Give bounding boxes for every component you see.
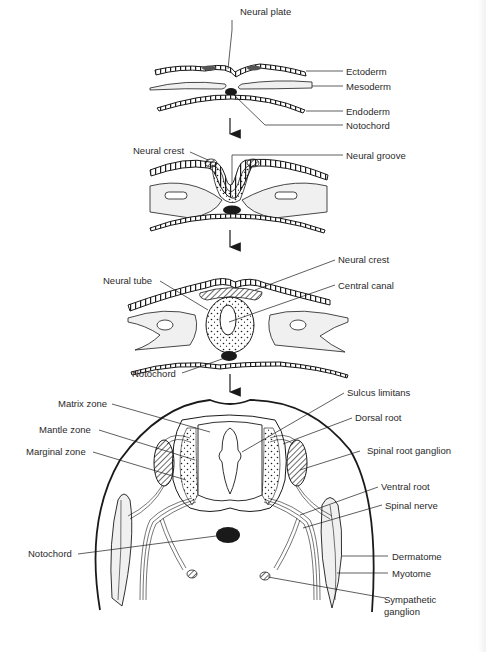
spinal-root-ganglion-left: [154, 440, 174, 486]
spinal-root-ganglion-right: [287, 440, 307, 486]
label-myotome: Myotome: [392, 568, 431, 579]
label-marginal-zone: Marginal zone: [26, 446, 86, 457]
mesoderm-layer: [150, 82, 226, 90]
label-endoderm: Endoderm: [346, 106, 390, 117]
mesoderm-right: [242, 183, 327, 218]
label-sympathetic-ganglion-line1: Sympathetic: [384, 594, 436, 605]
label-dermatome: Dermatome: [392, 551, 442, 562]
label-neural-crest-2: Neural crest: [133, 145, 184, 156]
label-spinal-root-ganglion: Spinal root ganglion: [367, 445, 451, 456]
neural-crest-right: [247, 159, 259, 167]
label-neural-tube: Neural tube: [103, 275, 152, 286]
central-canal: [220, 305, 236, 335]
notochord: [216, 527, 240, 543]
neural-plate-thickening: [202, 66, 216, 71]
label-ectoderm: Ectoderm: [346, 66, 387, 77]
sympathetic-ganglion-right: [260, 572, 270, 580]
stage-2-neural-groove: [150, 152, 343, 233]
endoderm-layer: [150, 214, 325, 233]
label-sympathetic-ganglion-line2: ganglion: [384, 606, 420, 617]
label-ventral-root: Ventral root: [381, 481, 430, 492]
label-neural-crest-3: Neural crest: [338, 254, 389, 265]
neural-crest-left: [205, 159, 217, 167]
label-sulcus-limitans: Sulcus limitans: [347, 387, 410, 398]
stage-1-neural-plate: [150, 20, 343, 125]
mesoderm-left: [128, 311, 197, 350]
label-neural-groove: Neural groove: [346, 150, 406, 161]
label-notochord-3: Notochord: [132, 368, 176, 379]
label-dorsal-root: Dorsal root: [355, 412, 401, 423]
label-neural-plate: Neural plate: [240, 6, 291, 17]
label-notochord-1: Notochord: [346, 120, 390, 131]
ectoderm-layer: [155, 64, 306, 77]
stage-4-spinal-cord: [78, 393, 388, 612]
label-central-canal: Central canal: [338, 280, 394, 291]
stage-3-neural-tube: [128, 260, 348, 378]
label-mantle-zone: Mantle zone: [39, 424, 91, 435]
label-notochord-4: Notochord: [28, 548, 72, 559]
label-spinal-nerve: Spinal nerve: [385, 500, 438, 511]
notochord: [221, 351, 237, 361]
endoderm-layer: [157, 95, 305, 113]
label-mesoderm: Mesoderm: [346, 81, 391, 92]
notochord: [223, 206, 241, 215]
sympathetic-ganglion-left: [187, 570, 197, 578]
mesoderm-right: [269, 311, 348, 352]
label-matrix-zone: Matrix zone: [58, 398, 107, 409]
mesoderm-left: [150, 183, 222, 218]
